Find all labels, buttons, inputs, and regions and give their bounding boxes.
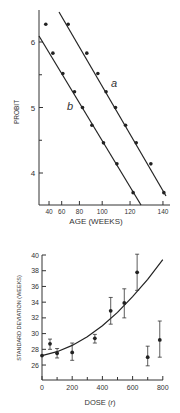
data-point [158,338,162,342]
x-tick-label: 400 [97,384,109,391]
fit-curve [42,260,163,356]
figure: 456 406080100120140 a b AGE (WEEKS) PROB… [0,0,180,413]
y-tick-label: 40 [31,252,39,259]
data-point [93,336,97,340]
data-point-b [44,23,48,27]
data-point-a [149,162,153,166]
data-point-b [115,162,119,166]
y-tick-label: 36 [31,283,39,290]
y-tick-label: 26 [31,362,39,369]
top-x-axis-title: AGE (WEEKS) [69,217,123,226]
x-tick-label: 600 [127,384,139,391]
y-tick-label: 4 [31,169,36,178]
data-point-a [66,23,70,27]
y-tick-label: 38 [31,267,39,274]
data-point [48,342,52,346]
data-point-b [102,141,106,145]
y-tick-label: 28 [31,346,39,353]
data-point-b [90,123,94,127]
series-a-label: a [111,77,117,89]
fit-line-a [59,12,166,196]
data-point-a [104,90,108,94]
series-b-label: b [67,100,73,112]
x-tick-label: 0 [40,384,44,391]
data-point-a [96,72,100,76]
y-tick-label: 5 [31,104,36,113]
data-point [122,301,126,305]
data-point-a [114,106,118,110]
fit-line-b [39,36,141,205]
data-point-a [134,141,138,145]
y-tick-label: 32 [31,314,39,321]
sd-dose-chart: 2628303234363840 0200400600800 DOSE (r) … [16,252,169,408]
data-point [109,309,113,313]
y-tick-label: 30 [31,330,39,337]
y-tick-label: 34 [31,299,39,306]
x-tick-label: 100 [97,208,108,215]
data-point [135,270,139,274]
top-y-axis-title: PROBIT [13,100,20,124]
x-tick-label: 800 [157,384,169,391]
data-point [70,351,74,355]
data-point [55,351,59,355]
x-tick-label: 40 [45,208,53,215]
probit-age-chart: 456 406080100120140 a b AGE (WEEKS) PROB… [13,10,170,226]
data-point-b [51,51,55,55]
data-point-b [61,72,65,76]
x-tick-label: 80 [76,208,84,215]
x-tick-label: 200 [66,384,78,391]
x-tick-label: 120 [125,208,136,215]
x-tick-label: 140 [158,208,169,215]
data-point-b [73,90,77,94]
data-point [146,355,150,359]
y-tick-label: 6 [31,38,36,47]
data-point-b [81,106,85,110]
data-point [40,354,44,358]
bottom-y-axis-title: STANDARD DEVIATION (WEEKS) [16,275,22,361]
data-point-a [85,51,89,55]
data-point-b [131,191,135,195]
bottom-x-axis-title: DOSE (r) [85,398,116,407]
data-point-a [124,123,128,127]
data-point-a [162,191,166,195]
x-tick-label: 60 [58,208,66,215]
